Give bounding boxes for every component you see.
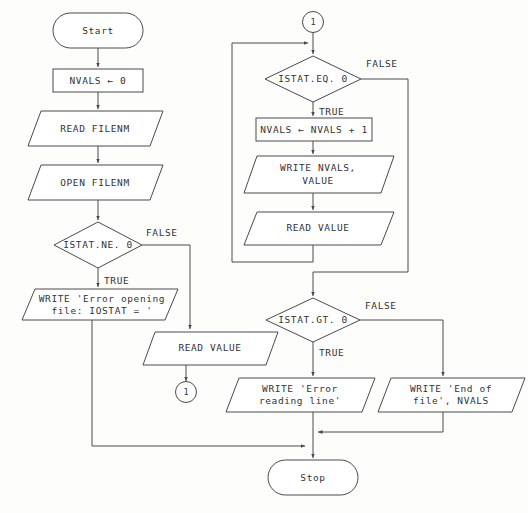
node-write-error-opening: WRITE 'Error opening file: IOSTAT = ' (22, 289, 178, 320)
node-init-nvals-label: NVALS ← 0 (70, 75, 127, 86)
connector-out-1-label: 1 (183, 387, 188, 397)
node-read-filenm-label: READ FILENM (60, 123, 130, 134)
node-write-end-of-file: WRITE 'End of file', NVALS (378, 378, 525, 412)
node-write-error-reading-line1: WRITE 'Error (262, 383, 338, 394)
node-istat-ne-0: ISTAT.EQ. 0 ISTAT.NE. 0 (54, 222, 142, 268)
node-istat-eq-0: ISTAT.EQ. 0 (265, 56, 361, 102)
node-stop-label: Stop (300, 472, 325, 483)
node-write-nvals-value-line1: WRITE NVALS, (280, 162, 356, 173)
flowchart-canvas: Start NVALS ← 0 READ FILENM OPEN FILENM … (0, 0, 528, 513)
edge-label-gt-true: TRUE (319, 347, 344, 358)
node-read-value-loop: READ VALUE (244, 212, 394, 245)
node-read-value-loop-label: READ VALUE (286, 222, 349, 233)
node-istat-ne-0-text: ISTAT.NE. 0 (63, 239, 133, 250)
node-open-filenm: OPEN FILENM (28, 165, 163, 200)
node-read-filenm: READ FILENM (28, 111, 163, 146)
node-write-end-of-file-line1: WRITE 'End of (410, 383, 492, 394)
node-increment-nvals-label: NVALS ← NVALS + 1 (260, 124, 367, 135)
edge-read-value-loop-to-rail (232, 245, 313, 262)
edge-label-eq-true: TRUE (319, 106, 344, 117)
node-write-error-opening-line1: WRITE 'Error opening (39, 293, 165, 304)
edge-write-end-of-file-to-stop-spine (318, 412, 443, 432)
node-write-error-reading: WRITE 'Error reading line' (226, 378, 375, 412)
edge-label-eq-false: FALSE (366, 58, 398, 69)
node-start-label: Start (82, 25, 114, 36)
connector-out-1: 1 (176, 382, 197, 403)
node-write-nvals-value: WRITE NVALS, VALUE (244, 156, 394, 193)
edge-label-ne-false: FALSE (146, 227, 178, 238)
edge-gt-false-to-write-end-of-file (360, 320, 443, 376)
node-open-filenm-label: OPEN FILENM (60, 177, 130, 188)
node-read-value-first-label: READ VALUE (178, 342, 241, 353)
node-istat-gt-0-text: ISTAT.GT. 0 (278, 314, 348, 325)
node-read-value-first: READ VALUE (143, 332, 278, 365)
node-write-error-opening-line2: file: IOSTAT = ' (51, 305, 152, 316)
node-istat-eq-0-text: ISTAT.EQ. 0 (278, 73, 348, 84)
node-write-end-of-file-line2: file', NVALS (413, 395, 489, 406)
flowchart-svg: Start NVALS ← 0 READ FILENM OPEN FILENM … (0, 0, 528, 513)
edge-label-gt-false: FALSE (365, 300, 397, 311)
node-init-nvals: NVALS ← 0 (53, 69, 143, 92)
node-stop: Stop (268, 460, 358, 495)
node-start: Start (53, 13, 143, 48)
connector-in-1-label: 1 (310, 17, 315, 27)
node-istat-gt-0: ISTAT.GT. 0 (266, 298, 360, 342)
node-increment-nvals: NVALS ← NVALS + 1 (256, 118, 372, 141)
node-write-nvals-value-line2: VALUE (302, 175, 334, 186)
node-write-error-reading-line2: reading line' (259, 395, 341, 406)
connector-in-1: 1 (303, 12, 324, 33)
edge-label-ne-true: TRUE (104, 275, 129, 286)
